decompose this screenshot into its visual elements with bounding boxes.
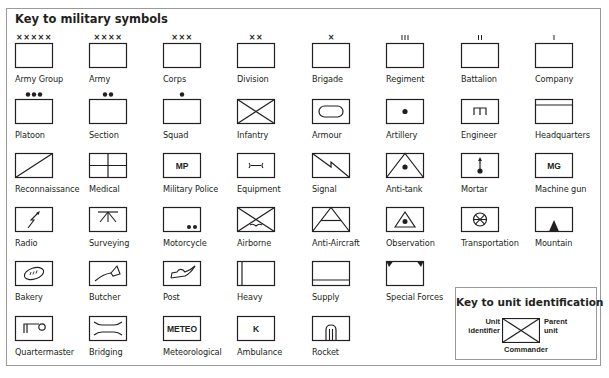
symbol-quartermaster: Quartermaster [15, 316, 89, 370]
svg-text:×××: ××× [171, 33, 193, 42]
symbol-label: Mountain [535, 238, 572, 248]
ambulance-icon: K [237, 316, 275, 341]
brigade-icon: × [312, 43, 350, 68]
symbol-label: Armour [312, 130, 342, 140]
unit-identification-title: Key to unit identification [456, 296, 596, 308]
supply-icon [312, 261, 350, 286]
bakery-icon [15, 261, 53, 286]
equipment-icon [237, 153, 275, 178]
symbol-radio: Radio [15, 207, 89, 261]
symbol-observation: Observation [386, 207, 460, 261]
symbol-label: Rocket [312, 347, 339, 357]
svg-text:××××: ×××× [94, 33, 123, 42]
corps-icon: ××× [163, 43, 201, 68]
symbol-butcher: Butcher [89, 261, 163, 315]
symbol-label: Reconnaissance [15, 184, 79, 194]
symbol-label: Transportation [461, 238, 519, 248]
symbol-headquarters: Headquarters [535, 99, 609, 153]
symbol-label: Section [89, 130, 119, 140]
symbol-label: Mortar [461, 184, 487, 194]
anti-tank-icon [386, 153, 424, 178]
rocket-icon [312, 316, 350, 341]
symbol-equipment: Equipment [237, 153, 311, 207]
symbol-post: Post [163, 261, 237, 315]
svg-text:××: ×× [249, 33, 263, 42]
radio-icon [15, 207, 53, 232]
symbol-airborne: Airborne [237, 207, 311, 261]
svg-text:K: K [253, 324, 260, 334]
surveying-icon [89, 207, 127, 232]
symbol-label: Machine gun [535, 184, 586, 194]
symbol-mountain: Mountain [535, 207, 609, 261]
symbol-label: Signal [312, 184, 337, 194]
symbol-label: Equipment [237, 184, 281, 194]
legend-title: Key to military symbols [15, 12, 168, 26]
symbol-label: Bakery [15, 292, 43, 302]
heavy-icon [237, 261, 275, 286]
symbol-label: Post [163, 292, 180, 302]
symbol-transportation: Transportation [461, 207, 535, 261]
symbol-military-police: MP Military Police [163, 153, 237, 207]
symbol-label: Regiment [386, 74, 424, 84]
division-icon: ×× [237, 43, 275, 68]
company-icon [535, 43, 573, 68]
symbol-bakery: Bakery [15, 261, 89, 315]
symbol-label: Heavy [237, 292, 262, 302]
symbol-label: Army [89, 74, 110, 84]
symbol-section: Section [89, 99, 163, 153]
symbol-ambulance: K Ambulance [237, 316, 311, 370]
symbol-meteorological: METEO Meteorological [163, 316, 237, 370]
butcher-icon [89, 261, 127, 286]
symbol-label: Headquarters [535, 130, 590, 140]
symbol-label: Army Group [15, 74, 63, 84]
symbol-engineer: Engineer [461, 99, 535, 153]
army-group-icon: ××××× [15, 43, 53, 68]
symbol-division: ×× Division [237, 43, 311, 97]
symbol-medical: Medical [89, 153, 163, 207]
reconnaissance-icon [15, 153, 53, 178]
meteorological-icon: METEO [163, 316, 201, 341]
medical-icon [89, 153, 127, 178]
symbol-label: Corps [163, 74, 186, 84]
symbol-squad: Squad [163, 99, 237, 153]
symbol-label: Battalion [461, 74, 497, 84]
unit-identifier-line-2: identifier [462, 327, 500, 336]
symbol-rocket: Rocket [312, 316, 386, 370]
symbol-label: Bridging [89, 347, 123, 357]
symbol-heavy: Heavy [237, 261, 311, 315]
svg-text:×××××: ××××× [16, 33, 52, 42]
svg-text:MG: MG [547, 161, 561, 171]
symbol-regiment: Regiment [386, 43, 460, 97]
army-icon: ×××× [89, 43, 127, 68]
symbol-label: Company [535, 74, 573, 84]
symbol-label: Ambulance [237, 347, 282, 357]
symbol-army: ×××× Army [89, 43, 163, 97]
unit-identifier-label: Unit identifier [462, 318, 500, 335]
observation-icon [386, 207, 424, 232]
symbol-label: Quartermaster [15, 347, 74, 357]
special-forces-icon [386, 261, 424, 286]
squad-icon [163, 99, 201, 124]
symbol-anti-tank: Anti-tank [386, 153, 460, 207]
artillery-icon [386, 99, 424, 124]
anti-aircraft-icon [312, 207, 350, 232]
symbol-reconnaissance: Reconnaissance [15, 153, 89, 207]
symbol-label: Radio [15, 238, 38, 248]
symbol-machine-gun: MG Machine gun [535, 153, 609, 207]
symbol-label: Airborne [237, 238, 271, 248]
quartermaster-icon [15, 316, 53, 341]
svg-text:METEO: METEO [167, 324, 198, 334]
svg-text:MP: MP [176, 161, 189, 171]
section-icon [89, 99, 127, 124]
symbol-label: Anti-tank [386, 184, 423, 194]
commander-label: Commander [456, 346, 596, 355]
symbol-armour: Armour [312, 99, 386, 153]
symbol-motorcycle: Motorcycle [163, 207, 237, 261]
machine-gun-icon: MG [535, 153, 573, 178]
symbol-label: Brigade [312, 74, 343, 84]
symbol-signal: Signal [312, 153, 386, 207]
armour-icon [312, 99, 350, 124]
symbol-label: Medical [89, 184, 120, 194]
regiment-icon [386, 43, 424, 68]
symbol-corps: ××× Corps [163, 43, 237, 97]
